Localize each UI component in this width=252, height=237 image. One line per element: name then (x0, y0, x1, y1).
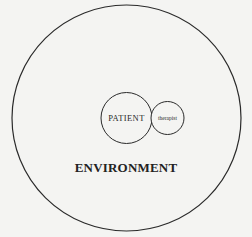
environment-diagram: PATIENT therapist ENVIRONMENT (0, 0, 252, 237)
environment-label: ENVIRONMENT (75, 160, 178, 175)
patient-label: PATIENT (108, 113, 145, 123)
therapist-label: therapist (158, 115, 177, 121)
